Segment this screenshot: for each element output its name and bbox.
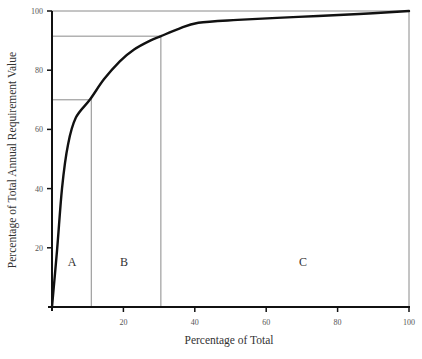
region-label-b: B — [120, 255, 128, 269]
x-tick-label: 60 — [262, 318, 270, 327]
y-tick-label: 20 — [35, 244, 43, 253]
y-tick-label: 80 — [35, 66, 43, 75]
region-label-a: A — [68, 255, 77, 269]
x-tick-label: 80 — [334, 318, 342, 327]
y-axis-title: Percentage of Total Annual Requirement V… — [6, 52, 19, 268]
x-tick-label: 20 — [119, 318, 127, 327]
reference-lines — [52, 11, 409, 307]
y-tick-label: 60 — [35, 125, 43, 134]
region-label-c: C — [299, 255, 307, 269]
y-axis-ticks: 20406080100 — [31, 7, 52, 253]
y-tick-label: 40 — [35, 185, 43, 194]
region-labels: ABC — [68, 255, 307, 269]
x-tick-label: 100 — [403, 318, 415, 327]
x-tick-label: 40 — [191, 318, 199, 327]
cumulative-curve — [52, 11, 409, 307]
axes — [48, 11, 410, 311]
abc-analysis-chart: 20406080100 20406080100 ABC Percentage o… — [0, 0, 422, 359]
x-axis-title: Percentage of Total — [184, 334, 273, 347]
y-tick-label: 100 — [31, 7, 43, 16]
x-axis-ticks: 20406080100 — [119, 307, 415, 327]
